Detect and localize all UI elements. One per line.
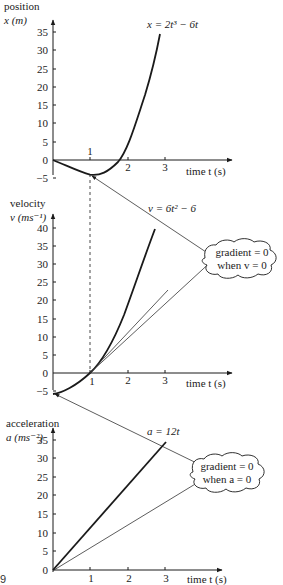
- tick-label: 35: [37, 240, 49, 252]
- tick-label: 40: [37, 222, 49, 234]
- figure-number: 9: [0, 573, 6, 585]
- position-xlabel: time t (s): [186, 165, 226, 178]
- position-ylabel-unit: x (m): [3, 14, 27, 27]
- tick-label: 0: [43, 367, 49, 379]
- tick-label: 1: [87, 145, 93, 157]
- tick-label: 3: [163, 572, 169, 584]
- position-curve: [53, 34, 160, 175]
- pointer-velocity-min: [55, 394, 215, 472]
- acceleration-ylabel: acceleration: [6, 417, 60, 429]
- tick-label: 35: [37, 434, 49, 446]
- tick-label: 25: [37, 471, 49, 483]
- tick-label: 15: [37, 99, 49, 111]
- position-equation: x = 2t³ − 6t: [146, 18, 199, 30]
- callout-velocity-line1: gradient = 0: [215, 246, 269, 258]
- velocity-ylabel: velocity: [10, 197, 46, 209]
- tick-label: 0: [43, 564, 49, 576]
- velocity-panel: velocity v (ms⁻¹) 40 35 30 25 20 15 10 5…: [10, 197, 232, 397]
- acceleration-xlabel: time t (s): [187, 573, 227, 585]
- tick-label: 1: [89, 375, 95, 387]
- tick-label: 5: [43, 349, 49, 361]
- callout-acceleration-line1: gradient = 0: [200, 460, 254, 472]
- acceleration-line: [53, 442, 166, 570]
- tick-label: 20: [37, 81, 49, 93]
- position-ylabel: position: [4, 0, 40, 12]
- tick-label: 30: [37, 452, 49, 464]
- tick-label: 15: [37, 313, 49, 325]
- tick-label: 3: [162, 374, 168, 386]
- tick-label: 3: [162, 161, 168, 173]
- callout-velocity-line2: when v = 0: [217, 259, 267, 271]
- tick-label: 1: [88, 572, 94, 584]
- tick-label: 30: [37, 44, 49, 56]
- tick-label: 15: [37, 508, 49, 520]
- velocity-curve: [53, 229, 155, 394]
- tick-label: −5: [36, 385, 48, 397]
- acceleration-panel: acceleration a (ms⁻²) 35 30 25 20 15 10 …: [6, 417, 227, 585]
- tick-label: 10: [37, 331, 49, 343]
- tick-label: 25: [37, 276, 49, 288]
- tick-label: 2: [125, 161, 131, 173]
- tick-label: 2: [126, 572, 132, 584]
- pointer-position-min: [92, 176, 215, 258]
- tick-label: 20: [37, 489, 49, 501]
- tick-label: 5: [43, 136, 49, 148]
- callout-acceleration: gradient = 0 when a = 0: [190, 453, 264, 493]
- tick-label: 30: [37, 258, 49, 270]
- velocity-equation: v = 6t² − 6: [148, 202, 197, 214]
- tick-label: −5: [36, 172, 48, 184]
- kinematics-figure: position x (m) 35 30 25 20 15 10 5 0 −5 …: [0, 0, 283, 585]
- tick-label: 20: [37, 294, 49, 306]
- velocity-xlabel: time t (s): [186, 377, 226, 390]
- callout-velocity: gradient = 0 when v = 0: [202, 239, 276, 279]
- tick-label: 10: [37, 527, 49, 539]
- tick-label: 5: [43, 545, 49, 557]
- tick-label: 10: [37, 117, 49, 129]
- tick-label: 35: [37, 26, 49, 38]
- acceleration-equation: a = 12t: [147, 425, 180, 437]
- callout-acceleration-line2: when a = 0: [203, 473, 252, 485]
- pointer-velocity-zero: [90, 258, 215, 373]
- tick-label: 2: [125, 374, 131, 386]
- pointer-acceleration-zero: [54, 472, 215, 570]
- tick-label: 0: [43, 154, 49, 166]
- position-panel: position x (m) 35 30 25 20 15 10 5 0 −5 …: [3, 0, 232, 184]
- tick-label: 25: [37, 63, 49, 75]
